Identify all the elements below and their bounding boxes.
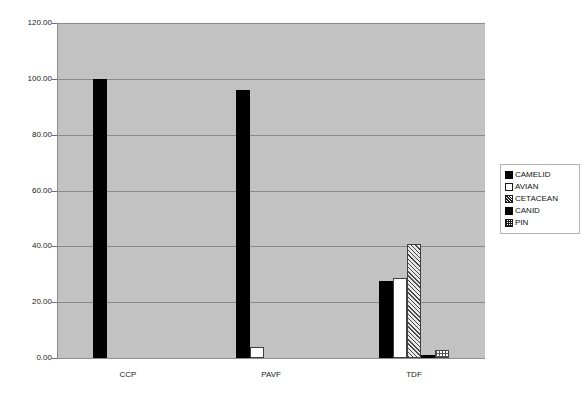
- bar-tdf-pin: [435, 350, 449, 358]
- white-swatch-icon: [505, 183, 513, 191]
- y-axis-tick-label: 20.00: [4, 298, 52, 306]
- x-axis-tick-label: TDF: [406, 371, 422, 379]
- plot-area: [57, 23, 485, 358]
- y-axis-tick-mark: [52, 358, 57, 359]
- x-axis-tick-label: PAVF: [261, 371, 281, 379]
- gridline: [57, 79, 485, 80]
- hatch-swatch-icon: [505, 195, 513, 203]
- bar-pavf-avian: [250, 347, 264, 358]
- y-axis-tick-mark: [52, 246, 57, 247]
- y-axis-tick-label: 40.00: [4, 242, 52, 250]
- y-axis-tick-label: 60.00: [4, 187, 52, 195]
- bar-tdf-cetacean: [407, 244, 421, 358]
- gridline: [57, 358, 485, 359]
- legend-item: CETACEAN: [505, 193, 574, 205]
- legend-item: AVIAN: [505, 181, 574, 193]
- legend-item-label: CANID: [515, 207, 540, 215]
- legend-item-label: AVIAN: [515, 183, 538, 191]
- y-axis-tick-mark: [52, 191, 57, 192]
- y-axis-tick-mark: [52, 23, 57, 24]
- y-axis-tick-label: 80.00: [4, 131, 52, 139]
- gridline: [57, 191, 485, 192]
- legend-item-label: PIN: [515, 219, 528, 227]
- y-axis-line: [57, 23, 58, 359]
- dots-swatch-icon: [505, 219, 513, 227]
- legend-item: PIN: [505, 217, 574, 229]
- x-axis-tick-label: CCP: [120, 371, 137, 379]
- solid-black-swatch-icon: [505, 171, 513, 179]
- gridline: [57, 23, 485, 24]
- legend-item: CAMELID: [505, 169, 574, 181]
- y-axis-tick-mark: [52, 79, 57, 80]
- y-axis-tick-label: 100.00: [4, 75, 52, 83]
- y-axis-tick-mark: [52, 135, 57, 136]
- legend-item-label: CAMELID: [515, 171, 551, 179]
- y-axis-tick-labels: 120.00100.0080.0060.0040.0020.000.00: [0, 0, 52, 406]
- bar-tdf-avian: [393, 278, 407, 358]
- bar-tdf-canid: [421, 355, 435, 358]
- bar-chart: 120.00100.0080.0060.0040.0020.000.00 CCP…: [0, 0, 586, 406]
- bar-ccp-camelid: [93, 79, 107, 358]
- y-axis-tick-label: 0.00: [4, 354, 52, 362]
- legend: CAMELIDAVIANCETACEANCANIDPIN: [500, 164, 580, 234]
- solid-black-swatch-icon: [505, 207, 513, 215]
- legend-item: CANID: [505, 205, 574, 217]
- gridline: [57, 135, 485, 136]
- bar-tdf-camelid: [379, 281, 393, 358]
- y-axis-tick-mark: [52, 302, 57, 303]
- legend-item-label: CETACEAN: [515, 195, 558, 203]
- bar-pavf-camelid: [236, 90, 250, 358]
- y-axis-tick-label: 120.00: [4, 19, 52, 27]
